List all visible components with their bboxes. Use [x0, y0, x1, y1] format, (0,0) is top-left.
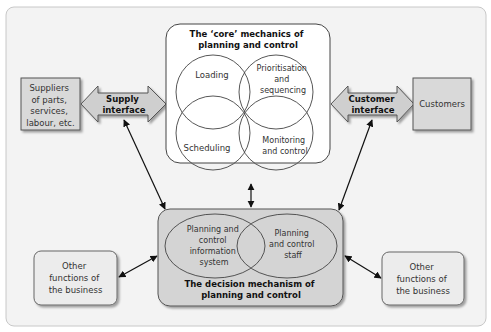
- monitoring-line-1: Monitoring: [262, 136, 305, 145]
- other-left-line-3: the business: [49, 285, 103, 295]
- other-right-line-2: functions of: [397, 274, 448, 284]
- core-title-line-2: planning and control: [198, 40, 298, 50]
- other-right-line-3: the business: [396, 286, 450, 296]
- suppliers-line-3: services,: [30, 106, 68, 116]
- other-left-line-2: functions of: [49, 273, 100, 283]
- staff-line-3: staff: [284, 251, 302, 260]
- loading-label: Loading: [195, 70, 229, 80]
- core-title-line-1: The ‘core’ mechanics of: [190, 29, 304, 39]
- svg-text:Loading: Loading: [195, 70, 229, 80]
- svg-text:The decision mechanism of: The decision mechanism of planning and c…: [185, 279, 318, 300]
- customers-label: Customers: [419, 99, 465, 109]
- other-functions-left-box: Other functions of the business: [34, 251, 117, 305]
- svg-text:Customer interface: Customer interface: [348, 94, 397, 115]
- prioritisation-line-2: and: [274, 75, 289, 84]
- svg-text:The ‘core’ mechanics of: The ‘core’ mechanics of planning and con…: [190, 29, 307, 50]
- core-mechanics-box: The ‘core’ mechanics of planning and con…: [166, 24, 330, 170]
- svg-text:Customers: Customers: [419, 99, 465, 109]
- supply-interface-line-2: interface: [102, 105, 145, 115]
- other-right-line-1: Other: [410, 262, 435, 272]
- svg-text:Scheduling: Scheduling: [184, 143, 231, 153]
- info-system-line-2: control: [199, 236, 227, 245]
- customer-interface-line-1: Customer: [348, 94, 395, 104]
- decision-title-line-2: planning and control: [201, 290, 301, 300]
- info-system-line-3: information: [190, 247, 236, 256]
- monitoring-line-2: and control: [262, 147, 307, 156]
- info-system-line-4: system: [200, 258, 229, 267]
- suppliers-box: Suppliers of parts, services, labour, et…: [21, 78, 80, 130]
- supply-interface-line-1: Supply: [106, 94, 139, 104]
- prioritisation-line-3: sequencing: [260, 86, 306, 95]
- info-system-line-1: Planning and: [187, 225, 239, 234]
- svg-text:Supply interface: Supply interface: [102, 94, 145, 115]
- other-functions-right-box: Other functions of the business: [382, 252, 464, 305]
- prioritisation-line-1: Prioritisation: [257, 64, 307, 73]
- suppliers-line-2: of parts,: [31, 95, 66, 105]
- decision-mechanism-box: Planning and control information system …: [158, 209, 343, 306]
- other-left-line-1: Other: [62, 261, 87, 271]
- staff-line-2: and control: [269, 240, 314, 249]
- planning-control-diagram: Suppliers of parts, services, labour, et…: [0, 0, 491, 332]
- suppliers-line-4: labour, etc.: [26, 118, 74, 128]
- staff-line-1: Planning: [274, 229, 308, 238]
- decision-title-line-1: The decision mechanism of: [185, 279, 315, 289]
- customer-interface-line-2: interface: [351, 105, 394, 115]
- svg-text:Suppliers of parts,: Suppliers of parts, services, labour, et…: [26, 83, 74, 128]
- customers-box: Customers: [413, 78, 471, 130]
- suppliers-line-1: Suppliers: [29, 83, 69, 93]
- scheduling-label: Scheduling: [184, 143, 231, 153]
